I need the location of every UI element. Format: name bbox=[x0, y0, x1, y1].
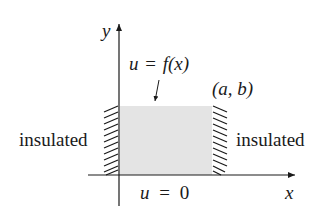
diagram-canvas: y x u = f(x) u = 0 (a, b) insulated insu… bbox=[0, 0, 327, 210]
x-axis-label: x bbox=[284, 182, 294, 203]
right-boundary-label: insulated bbox=[236, 129, 305, 150]
bottom-boundary-label: u = 0 bbox=[140, 182, 189, 203]
left-boundary-label: insulated bbox=[19, 129, 88, 150]
top-boundary-label: u = f(x) bbox=[129, 53, 189, 75]
left-insulation-hatching bbox=[104, 106, 118, 175]
corner-point-label: (a, b) bbox=[212, 78, 253, 100]
plate-region bbox=[120, 106, 212, 175]
y-axis-label: y bbox=[100, 20, 111, 41]
top-boundary-pointer-arrow bbox=[155, 80, 159, 101]
right-insulation-hatching bbox=[213, 106, 227, 175]
